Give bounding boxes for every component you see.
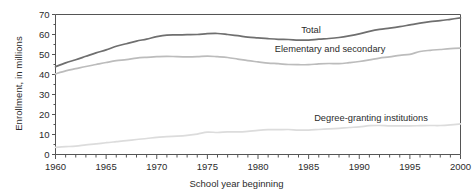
series-line-elementary-and-secondary	[56, 48, 461, 74]
axes	[52, 15, 461, 160]
y-tick-label: 20	[39, 109, 50, 120]
annotation-elementary-and-secondary: Elementary and secondary	[275, 44, 386, 54]
y-tick-label: 50	[39, 49, 50, 60]
x-tick-label: 2000	[450, 161, 471, 172]
y-tick-label: 40	[39, 69, 50, 80]
enrollment-line-chart: Enrollment, in millions School year begi…	[0, 0, 473, 196]
x-tick-label: 1980	[247, 161, 268, 172]
y-tick-label: 30	[39, 89, 50, 100]
y-axis-label: Enrollment, in millions	[13, 14, 24, 154]
x-tick-label: 1990	[349, 161, 370, 172]
x-axis-label: School year beginning	[0, 178, 473, 189]
plot-frame	[56, 15, 461, 155]
plot-area: 0102030405060701960196519701975198019851…	[0, 0, 473, 196]
annotation-total: Total	[301, 25, 321, 35]
series-line-total	[56, 18, 461, 67]
x-tick-label: 1960	[45, 161, 66, 172]
x-tick-label: 1965	[96, 161, 117, 172]
x-tick-label: 1985	[298, 161, 319, 172]
x-tick-label: 1970	[146, 161, 167, 172]
series-line-degree-granting-institutions	[56, 124, 461, 147]
y-tick-label: 60	[39, 29, 50, 40]
tick-labels: 0102030405060701960196519701975198019851…	[39, 9, 471, 172]
annotation-degree-granting-institutions: Degree-granting institutions	[314, 113, 428, 123]
y-tick-label: 70	[39, 9, 50, 20]
y-tick-label: 10	[39, 129, 50, 140]
y-tick-label: 0	[44, 149, 49, 160]
x-tick-label: 1975	[197, 161, 218, 172]
series-lines	[56, 18, 461, 147]
x-tick-label: 1995	[399, 161, 420, 172]
